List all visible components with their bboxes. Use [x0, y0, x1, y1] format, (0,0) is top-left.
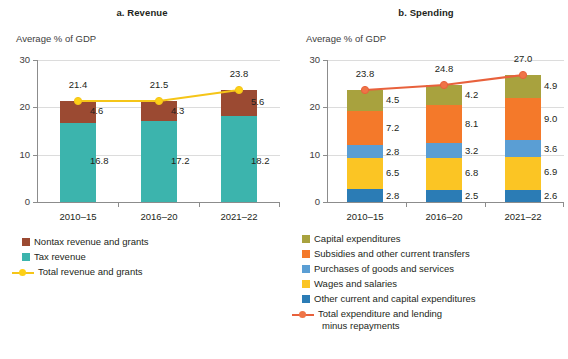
legend-item-nontax-revenue[interactable]: Nontax revenue and grants	[0, 236, 284, 251]
total-value-label-1: 23.8	[345, 68, 385, 79]
x-tick-label-2: 2016–20	[124, 211, 194, 222]
total-value-label-1: 21.4	[58, 79, 98, 90]
legend-item-total-expenditure[interactable]: Total expenditure and lending minus repa…	[284, 308, 568, 334]
plot-area-revenue: 30 20 10 0 16.8 4.6 17.2 4.3 18.2 5.6 21…	[0, 0, 284, 230]
legend-line-marker-icon-total-expenditure	[284, 308, 318, 320]
legend-label-total-expenditure-line1: Total expenditure and lending	[318, 308, 442, 319]
legend-item-subsidies[interactable]: Subsidies and other current transfers	[284, 248, 568, 263]
legend-line-marker-icon-total-revenue	[0, 266, 38, 278]
legend-item-tax-revenue[interactable]: Tax revenue	[0, 251, 284, 266]
chart-panel-revenue: a. Revenue Average % of GDP 30 20 10 0 1…	[0, 0, 284, 359]
legend-item-capital-expenditures[interactable]: Capital expenditures	[284, 233, 568, 248]
total-expenditure-line	[284, 0, 568, 230]
legend-label-total-revenue: Total revenue and grants	[38, 266, 143, 278]
total-value-label-2: 21.5	[139, 79, 179, 90]
legend-swatch-icon-subsidies	[284, 248, 314, 260]
legend-label-purchases: Purchases of goods and services	[314, 263, 454, 275]
legend-swatch-icon-tax	[0, 251, 34, 263]
x-tick-label-2: 2016–20	[409, 211, 479, 222]
x-tick-label-1: 2010–15	[330, 211, 400, 222]
legend-revenue: Nontax revenue and grants Tax revenue To…	[0, 236, 284, 281]
legend-swatch-icon-capital	[284, 233, 314, 245]
x-tick-label-3: 2021–22	[204, 211, 274, 222]
total-value-label-3: 27.0	[503, 53, 543, 64]
legend-swatch-icon-purchases	[284, 263, 314, 275]
legend-label-tax: Tax revenue	[34, 251, 86, 263]
total-revenue-line	[0, 0, 284, 230]
legend-item-purchases[interactable]: Purchases of goods and services	[284, 263, 568, 278]
legend-label-wages: Wages and salaries	[314, 278, 397, 290]
legend-label-other: Other current and capital expenditures	[314, 293, 476, 305]
legend-swatch-icon-other	[284, 293, 314, 305]
x-tick-label-3: 2021–22	[488, 211, 558, 222]
total-value-label-3: 23.8	[219, 68, 259, 79]
x-tick-label-1: 2010–15	[43, 211, 113, 222]
legend-label-total-expenditure-line2: minus repayments	[322, 320, 442, 332]
legend-label-nontax: Nontax revenue and grants	[34, 236, 149, 248]
legend-swatch-icon-nontax	[0, 236, 34, 248]
plot-area-spending: 30 20 10 0 2.8 6.5 2.8 7.2 4.5 2.5 6.8 3…	[284, 0, 568, 230]
total-value-label-2: 24.8	[424, 63, 464, 74]
legend-item-total-revenue[interactable]: Total revenue and grants	[0, 266, 284, 281]
legend-spending: Capital expenditures Subsidies and other…	[284, 233, 568, 334]
legend-item-wages[interactable]: Wages and salaries	[284, 278, 568, 293]
legend-label-capital: Capital expenditures	[314, 233, 401, 245]
legend-item-other-current[interactable]: Other current and capital expenditures	[284, 293, 568, 308]
legend-label-subsidies: Subsidies and other current transfers	[314, 248, 470, 260]
chart-panel-spending: b. Spending Average % of GDP 30 20 10 0 …	[284, 0, 568, 359]
legend-swatch-icon-wages	[284, 278, 314, 290]
